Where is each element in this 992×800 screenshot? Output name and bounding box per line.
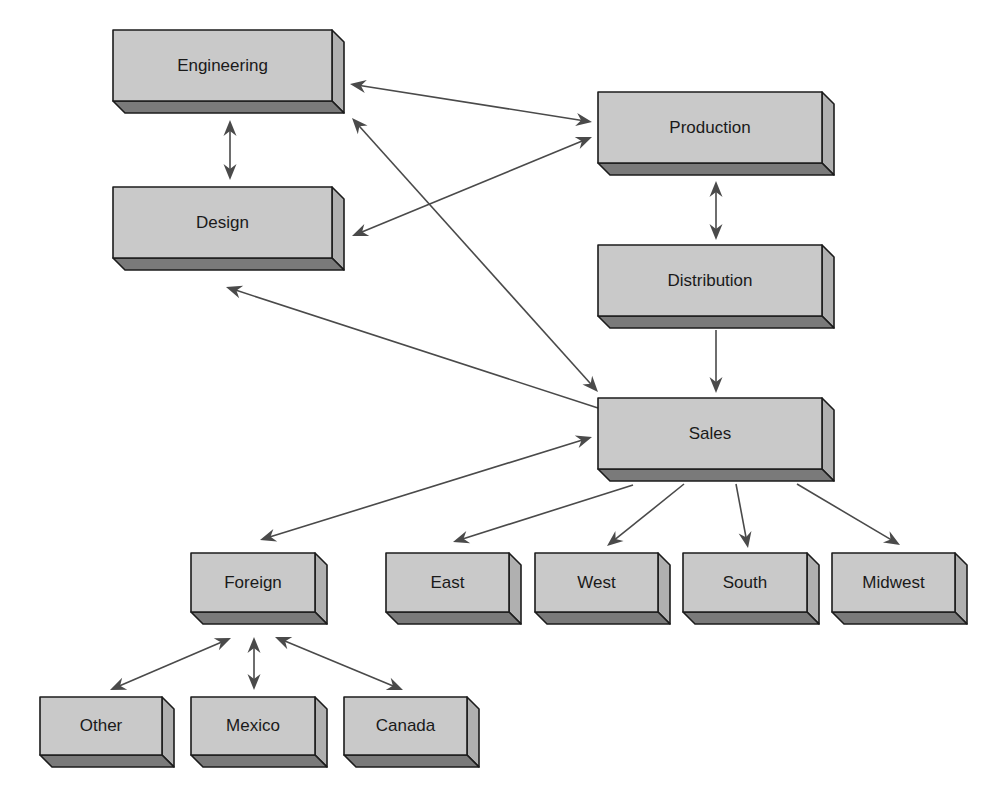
box-bottom-face xyxy=(598,469,834,481)
connector-line xyxy=(736,484,746,538)
box-bottom-face xyxy=(832,612,967,624)
box-bottom-face xyxy=(683,612,819,624)
connector-line xyxy=(284,641,394,686)
node-engineering: Engineering xyxy=(113,30,344,113)
connector-line xyxy=(361,141,583,232)
box-bottom-face xyxy=(191,612,327,624)
node-sales: Sales xyxy=(598,398,834,481)
node-foreign: Foreign xyxy=(191,553,327,624)
node-label: East xyxy=(386,553,509,612)
box-side-face xyxy=(822,398,834,481)
box-bottom-face xyxy=(344,755,479,767)
node-label: Engineering xyxy=(113,30,332,101)
connector-line xyxy=(270,440,583,537)
connector-line xyxy=(360,86,582,121)
node-label: South xyxy=(683,553,807,612)
connector-line xyxy=(463,485,633,539)
node-label: Mexico xyxy=(191,697,315,755)
arrowhead-icon xyxy=(607,531,624,546)
node-mexico: Mexico xyxy=(191,697,327,767)
box-side-face xyxy=(822,245,834,328)
box-side-face xyxy=(822,92,834,175)
node-label: Sales xyxy=(598,398,822,469)
box-bottom-face xyxy=(386,612,521,624)
box-bottom-face xyxy=(113,258,344,270)
node-label: West xyxy=(535,553,658,612)
connector-line xyxy=(359,125,592,384)
node-midwest: Midwest xyxy=(832,553,967,624)
node-west: West xyxy=(535,553,670,624)
organization-diagram: Engineering Design Production Distributi… xyxy=(0,0,992,800)
arrowhead-icon xyxy=(883,531,900,545)
connector-line xyxy=(615,484,684,540)
node-other: Other xyxy=(40,697,174,767)
node-label: Production xyxy=(598,92,822,163)
node-label: Canada xyxy=(344,697,467,755)
connector-line xyxy=(797,484,891,540)
box-bottom-face xyxy=(598,316,834,328)
connector-line xyxy=(236,290,598,408)
node-label: Midwest xyxy=(832,553,955,612)
node-east: East xyxy=(386,553,521,624)
node-label: Design xyxy=(113,187,332,258)
node-south: South xyxy=(683,553,819,624)
box-bottom-face xyxy=(535,612,670,624)
box-bottom-face xyxy=(113,101,344,113)
box-bottom-face xyxy=(191,755,327,767)
box-side-face xyxy=(332,30,344,113)
node-distribution: Distribution xyxy=(598,245,834,328)
node-label: Foreign xyxy=(191,553,315,612)
node-production: Production xyxy=(598,92,834,175)
connector-layer xyxy=(0,0,992,800)
node-canada: Canada xyxy=(344,697,479,767)
connector-line xyxy=(119,642,222,686)
node-label: Other xyxy=(40,697,162,755)
node-design: Design xyxy=(113,187,344,270)
node-label: Distribution xyxy=(598,245,822,316)
box-side-face xyxy=(332,187,344,270)
box-bottom-face xyxy=(598,163,834,175)
box-bottom-face xyxy=(40,755,174,767)
